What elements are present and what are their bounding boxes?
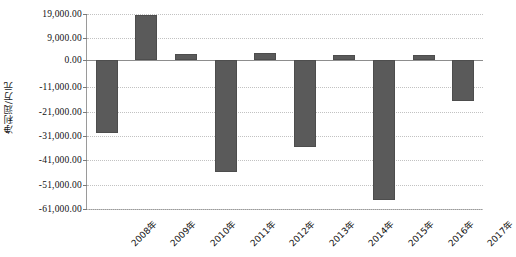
y-axis-tick-labels: 19,000.009,000.000.00-11,000.00-21,000.0…: [16, 0, 86, 215]
x-axis-tick-label: 2017年: [484, 217, 516, 249]
bar: [215, 60, 237, 172]
x-axis-tick-labels: 2008年2009年2010年2011年2012年2013年2014年2015年…: [86, 210, 482, 257]
y-axis-tick-label: -11,000.00: [39, 82, 82, 92]
y-axis-tick-label: -21,000.00: [39, 107, 82, 117]
bar: [96, 60, 118, 133]
y-axis-title-label: 净利润/万元: [2, 81, 16, 134]
x-axis-tick-label: 2013年: [326, 217, 358, 249]
bar: [254, 53, 276, 60]
x-axis-tick-label: 2009年: [167, 217, 199, 249]
x-axis-tick-label: 2016年: [445, 217, 477, 249]
x-axis-tick-label: 2014年: [365, 217, 397, 249]
y-axis-tick-label: -31,000.00: [39, 131, 82, 141]
y-axis-tick-label: -61,000.00: [39, 204, 82, 214]
y-axis-tick-label: 19,000.00: [42, 9, 82, 19]
bar: [413, 55, 435, 60]
x-axis-tick-label: 2008年: [128, 217, 160, 249]
y-axis-tick-label: 0.00: [65, 55, 82, 65]
x-axis-tick-label: 2012年: [286, 217, 318, 249]
bar: [294, 60, 316, 147]
bar: [452, 60, 474, 100]
bars-group: [87, 14, 483, 209]
x-axis-tick-label: 2010年: [207, 217, 239, 249]
y-axis-tick-label: -41,000.00: [39, 155, 82, 165]
x-axis-tick-label: 2011年: [247, 217, 279, 249]
y-axis-tick-label: -51,000.00: [39, 180, 82, 190]
bar: [373, 60, 395, 200]
y-axis-tick-label: 9,000.00: [47, 33, 82, 43]
bar: [135, 15, 157, 60]
bar: [333, 55, 355, 60]
plot-area: [86, 14, 483, 210]
x-axis-tick-label: 2015年: [405, 217, 437, 249]
bar: [175, 54, 197, 60]
